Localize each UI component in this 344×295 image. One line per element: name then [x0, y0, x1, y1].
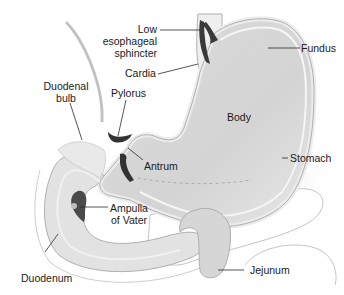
ampulla-line1: Ampulla: [110, 202, 148, 214]
ampulla-line2: of Vater: [110, 214, 148, 226]
stomach-anatomy-diagram: [0, 0, 344, 295]
label-pylorus: Pylorus: [111, 87, 146, 99]
label-duodenal-bulb: Duodenal bulb: [36, 80, 96, 104]
label-jejunum: Jejunum: [250, 264, 290, 276]
label-ampulla-of-vater: Ampulla of Vater: [110, 202, 148, 226]
duodenal-bulb-line2: bulb: [36, 92, 96, 104]
label-stomach: Stomach: [290, 152, 331, 164]
les-line3: sphincter: [99, 47, 157, 59]
leader-duodenal-bulb: [70, 103, 82, 140]
label-duodenum: Duodenum: [21, 272, 72, 284]
label-fundus: Fundus: [301, 42, 336, 54]
ampulla-papilla: [71, 203, 77, 209]
label-low-esophageal-sphincter: Low esophageal sphincter: [99, 23, 157, 59]
duodenal-bulb-line1: Duodenal: [36, 80, 96, 92]
label-body: Body: [227, 111, 251, 123]
pylorus-sphincter: [108, 132, 132, 143]
label-cardia: Cardia: [125, 67, 156, 79]
les-line1: Low: [99, 23, 157, 35]
label-antrum: Antrum: [144, 160, 178, 172]
les-line2: esophageal: [99, 35, 157, 47]
